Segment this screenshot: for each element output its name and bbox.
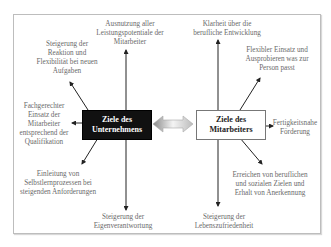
- goal-company-lower-left: Einleitung von Selbstlernprozessen bei s…: [16, 170, 100, 197]
- company-goals-line1: Ziele des: [102, 115, 132, 125]
- goal-employee-lower-right: Erreichen von beruflichen und sozialen Z…: [228, 171, 312, 198]
- goal-employee-upper-right: Flexibler Einsatz und Ausprobieren was z…: [242, 46, 312, 73]
- goal-employee-bottom: Steigerung der Lebenszufriedenheit: [192, 213, 256, 231]
- goal-company-upper-left: Steigerung der Reaktion und Flexibilität…: [32, 40, 102, 76]
- company-goals-line2: Unternehmens: [92, 125, 142, 135]
- goal-employee-top: Klarheit über die berufliche Entwicklung: [190, 20, 264, 38]
- employee-goals-line1: Ziele des: [216, 115, 246, 125]
- goal-company-left: Fachgerechter Einsatz der Mitarbeiter en…: [15, 102, 73, 147]
- employee-goals-line2: Mitarbeiters: [209, 125, 252, 135]
- goal-employee-right: Fertigkeitsnahe Förderung: [271, 119, 319, 137]
- company-goals-box: Ziele des Unternehmens: [82, 110, 152, 140]
- goal-company-bottom: Steigerung der Eigenverantwortung: [88, 213, 158, 231]
- goal-company-top: Ausnutzung aller Leistungspotentiale der…: [92, 20, 168, 47]
- employee-goals-box: Ziele des Mitarbeiters: [196, 110, 266, 140]
